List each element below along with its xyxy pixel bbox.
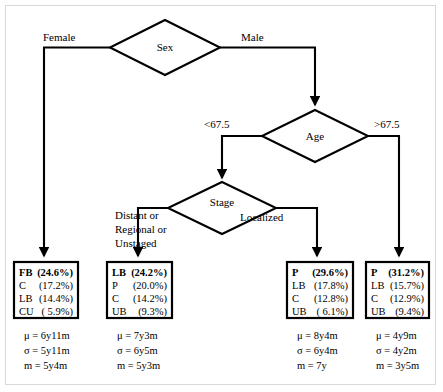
leaf-p-localized-row-0-key: LB (292, 280, 305, 291)
leaf-lb-row-2-value: (9.3%) (138, 306, 167, 318)
leaf-p-older-row-2-value: (9.4%) (395, 306, 424, 318)
leaf-p-older-head-value: (31.2%) (388, 267, 424, 279)
edge-label-age-low: <67.5 (204, 118, 230, 130)
leaf-fb-head-value: (24.6%) (37, 267, 73, 279)
leaf-p-localized-row-1-key: C (292, 293, 299, 304)
leaf-lb-head-value: (24.2%) (131, 267, 167, 279)
leaf-node-p-older[interactable]: P (31.2%) LB (15.7%) C (12.9%) UB (9.4%)… (366, 262, 429, 371)
edge-label-male: Male (241, 31, 264, 43)
leaf-p-older-head-label: P (371, 267, 378, 278)
leaf-lb-row-1-value: (14.2%) (133, 293, 168, 305)
leaf-fb-row-2-value: ( 5.9%) (42, 306, 74, 318)
edge-sex-female (44, 48, 110, 257)
decision-tree-svg: Sex Age Stage Female Male <67.5 >67.5 Di… (0, 0, 443, 392)
leaf-node-p-localized[interactable]: P (29.6%) LB (17.8%) C (12.8%) UB ( 6.1%… (287, 262, 353, 371)
edge-label-stage-distant: Distant or Regional or Unstaged (115, 209, 167, 249)
edge-age-low (222, 136, 262, 178)
leaf-p-older-stat-mean: μ = 4y9m (376, 330, 417, 341)
leaf-lb-row-0-value: (20.0%) (133, 280, 168, 292)
leaf-p-localized-row-2-key: UB (292, 306, 307, 317)
leaf-p-older-stat-median: m = 3y5m (376, 360, 419, 371)
node-stage-label: Stage (210, 196, 235, 208)
decision-tree-figure: Sex Age Stage Female Male <67.5 >67.5 Di… (0, 0, 443, 392)
svg-text:Unstaged: Unstaged (115, 237, 157, 249)
node-stage[interactable] (168, 182, 276, 234)
leaf-p-older-row-2-key: UB (371, 306, 386, 317)
leaf-lb-row-0-key: P (112, 280, 118, 291)
leaf-lb-row-2-key: UB (112, 306, 127, 317)
leaf-p-localized-stat-sd: σ = 6y4m (297, 345, 338, 356)
node-age-label: Age (306, 130, 324, 142)
leaf-p-older-stat-sd: σ = 4y2m (376, 345, 417, 356)
leaf-fb-row-0-key: C (19, 280, 26, 291)
leaf-p-older-row-0-key: LB (371, 280, 384, 291)
leaf-p-localized-row-1-value: (12.8%) (314, 293, 349, 305)
leaf-fb-head-label: FB (19, 267, 32, 278)
leaf-fb-row-0-value: (17.2%) (39, 280, 74, 292)
leaf-lb-stat-sd: σ = 6y5m (117, 345, 158, 356)
leaf-node-lb[interactable]: LB (24.2%) P (20.0%) C (14.2%) UB (9.3%)… (107, 262, 172, 371)
leaf-p-localized-head-value: (29.6%) (312, 267, 348, 279)
leaf-lb-stat-median: m = 5y3m (117, 360, 160, 371)
leaf-p-localized-stat-median: m = 7y (297, 360, 328, 371)
leaf-node-fb[interactable]: FB (24.6%) C (17.2%) LB (14.4%) CU ( 5.9… (14, 262, 78, 371)
leaf-lb-row-1-key: C (112, 293, 119, 304)
edge-age-high (368, 136, 399, 256)
node-sex-label: Sex (157, 41, 174, 53)
svg-text:Distant or: Distant or (115, 209, 159, 221)
edge-label-female: Female (43, 31, 75, 43)
edge-label-stage-localized: Localized (240, 211, 284, 223)
leaf-fb-row-1-key: LB (19, 293, 32, 304)
leaf-p-localized-row-2-value: ( 6.1%) (317, 306, 349, 318)
leaf-p-localized-row-0-value: (17.8%) (314, 280, 349, 292)
edge-label-age-high: >67.5 (374, 118, 400, 130)
leaf-lb-head-label: LB (112, 267, 126, 278)
leaf-lb-stat-mean: μ = 7y3m (117, 330, 158, 341)
svg-text:Regional or: Regional or (115, 223, 167, 235)
leaf-fb-stat-median: m = 5y4m (24, 360, 67, 371)
leaf-p-older-row-1-value: (12.9%) (390, 293, 425, 305)
leaf-p-localized-stat-mean: μ = 8y4m (297, 330, 338, 341)
leaf-p-older-row-0-value: (15.7%) (390, 280, 425, 292)
edge-sex-male (220, 48, 315, 106)
leaf-p-localized-head-label: P (292, 267, 299, 278)
leaf-fb-row-1-value: (14.4%) (39, 293, 74, 305)
leaf-fb-stat-sd: σ = 5y11m (24, 345, 70, 356)
leaf-p-older-row-1-key: C (371, 293, 378, 304)
leaf-fb-stat-mean: μ = 6y11m (24, 330, 70, 341)
leaf-fb-row-2-key: CU (19, 306, 34, 317)
